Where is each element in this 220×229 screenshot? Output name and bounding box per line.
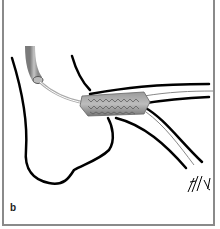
panel-label: b [10,202,16,213]
upper-branch-bottom [140,97,209,104]
catheter [30,46,38,80]
artist-signature [188,176,210,192]
upper-guidewire [144,91,214,96]
vessel-stent-illustration [4,0,217,226]
delivery-wire [40,82,84,103]
vessel-wall-upper [72,56,90,90]
lower-branch-bottom [116,118,186,168]
upper-branch-top [90,84,209,94]
figure-frame [2,0,215,226]
vessel-wall-left [12,58,113,184]
lower-guidewire [146,112,194,165]
